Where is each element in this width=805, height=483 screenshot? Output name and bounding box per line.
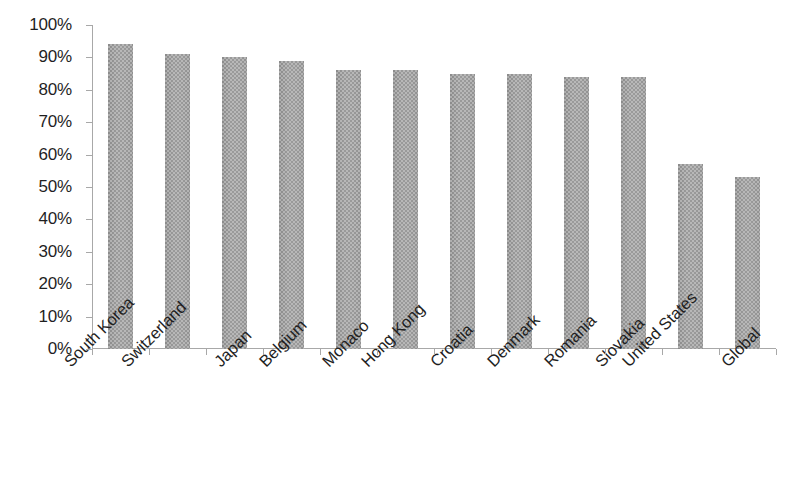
bar (336, 70, 361, 349)
x-axis-tick-mark (206, 349, 207, 355)
y-axis-tick-mark (86, 155, 92, 156)
x-axis-tick-mark (434, 349, 435, 355)
bar (450, 74, 475, 349)
x-axis-tick-mark (491, 349, 492, 355)
y-axis-tick-mark (86, 25, 92, 26)
y-axis-tick-label: 90% (0, 48, 72, 65)
x-axis-tick-mark (662, 349, 663, 355)
y-axis-tick-label: 100% (0, 16, 72, 33)
y-axis-tick-label: 50% (0, 178, 72, 195)
y-axis-tick-label: 40% (0, 210, 72, 227)
x-axis-tick-mark (263, 349, 264, 355)
bar (735, 177, 760, 349)
x-axis-tick-mark (719, 349, 720, 355)
y-axis-tick-mark (86, 284, 92, 285)
x-axis-tick-mark (149, 349, 150, 355)
y-axis-tick-label: 0% (0, 340, 72, 357)
x-axis-tick-mark (92, 349, 93, 355)
x-axis-tick-mark (320, 349, 321, 355)
bar (564, 77, 589, 349)
y-axis-tick-label: 30% (0, 243, 72, 260)
y-axis-tick-mark (86, 90, 92, 91)
y-axis-tick-label: 10% (0, 308, 72, 325)
bar (678, 164, 703, 349)
bar (393, 70, 418, 349)
y-axis-tick-mark (86, 317, 92, 318)
plot-area (92, 25, 776, 349)
bar (279, 61, 304, 349)
bar (621, 77, 646, 349)
bar-chart: 0%10%20%30%40%50%60%70%80%90%100% South … (0, 0, 805, 483)
bar (222, 57, 247, 349)
x-axis-tick-mark (548, 349, 549, 355)
bar (507, 74, 532, 349)
y-axis-tick-mark (86, 57, 92, 58)
x-axis-tick-mark (776, 349, 777, 355)
y-axis-tick-label: 60% (0, 146, 72, 163)
y-axis-tick-mark (86, 187, 92, 188)
y-axis-tick-mark (86, 252, 92, 253)
y-axis: 0%10%20%30%40%50%60%70%80%90%100% (0, 0, 72, 483)
y-axis-tick-label: 20% (0, 275, 72, 292)
y-axis-tick-label: 80% (0, 81, 72, 98)
y-axis-tick-mark (86, 122, 92, 123)
x-axis-tick-mark (605, 349, 606, 355)
bar (108, 44, 133, 349)
y-axis-tick-mark (86, 219, 92, 220)
y-axis-tick-label: 70% (0, 113, 72, 130)
bar (165, 54, 190, 349)
x-axis-tick-mark (377, 349, 378, 355)
